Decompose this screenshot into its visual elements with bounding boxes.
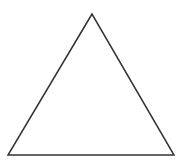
triangle-shape (8, 14, 174, 155)
diagram-canvas (0, 0, 188, 168)
triangle-diagram (0, 0, 188, 168)
